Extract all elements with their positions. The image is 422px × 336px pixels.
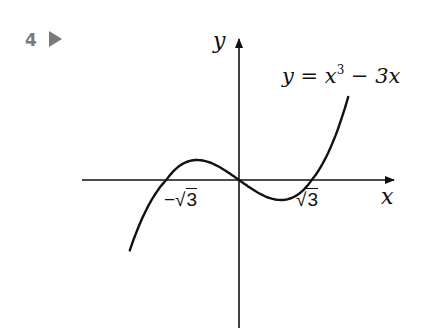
y-axis-label: y xyxy=(213,28,225,53)
x-axis-label: x xyxy=(381,184,393,209)
x-tick-neg-root3: −√3 xyxy=(164,189,197,211)
x-tick-pos-root3: √3 xyxy=(296,189,318,211)
chart-canvas xyxy=(0,0,422,336)
curve-equation-label: y = x3 − 3x xyxy=(282,63,400,88)
